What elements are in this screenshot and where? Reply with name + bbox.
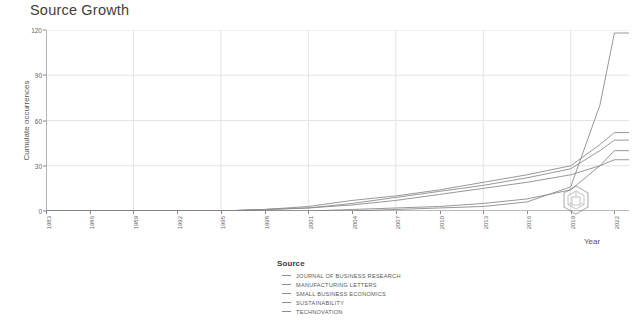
x-tick-label: 1989 [133, 216, 139, 229]
legend-items: JOURNAL OF BUSINESS RESEARCHMANUFACTURIN… [277, 271, 487, 316]
y-tick-mark [43, 30, 46, 31]
legend-item-label: JOURNAL OF BUSINESS RESEARCH [296, 273, 401, 279]
y-tick-mark [43, 165, 46, 166]
y-tick-label: 60 [35, 117, 42, 124]
x-tick-mark [46, 211, 47, 214]
x-tick-label: 2001 [308, 216, 314, 229]
legend: Source JOURNAL OF BUSINESS RESEARCHMANUF… [277, 259, 487, 316]
hexagon-watermark-icon [560, 184, 592, 216]
y-axis-title: Cumulate occurrences [22, 30, 34, 211]
x-tick-label: 2013 [483, 216, 489, 229]
x-tick-label: 2010 [439, 216, 445, 229]
x-tick-label: 2007 [395, 216, 401, 229]
legend-swatch-icon [282, 275, 291, 276]
legend-swatch-icon [282, 311, 291, 312]
legend-swatch-icon [282, 284, 291, 285]
x-tick-mark [265, 211, 266, 214]
y-tick-label: 0 [38, 208, 42, 215]
x-tick-mark [396, 211, 397, 214]
legend-item-label: SUSTAINABILITY [296, 300, 344, 306]
x-tick-label: 1986 [89, 216, 95, 229]
legend-item-label: SMALL BUSINESS ECONOMICS [296, 291, 386, 297]
y-tick-label: 120 [31, 27, 42, 34]
page-title: Source Growth [30, 2, 129, 18]
x-tick-label: 1992 [177, 216, 183, 229]
x-tick-mark [90, 211, 91, 214]
x-tick-mark [352, 211, 353, 214]
plot-area: Cumulate occurrences 0306090120 19831986… [46, 30, 629, 211]
x-tick-mark [177, 211, 178, 214]
x-axis-title: Year [584, 237, 600, 246]
legend-item[interactable]: JOURNAL OF BUSINESS RESEARCH [282, 271, 487, 280]
x-tick-mark [483, 211, 484, 214]
y-tick-label: 30 [35, 162, 42, 169]
x-tick-mark [221, 211, 222, 214]
legend-item[interactable]: MANUFACTURING LETTERS [282, 280, 487, 289]
x-tick-mark [527, 211, 528, 214]
chart-page: Source Growth Cumulate occurrences 03060… [0, 0, 642, 323]
y-tick-label: 90 [35, 72, 42, 79]
x-tick-mark [308, 211, 309, 214]
legend-item-label: MANUFACTURING LETTERS [296, 282, 377, 288]
y-tick-mark [43, 75, 46, 76]
x-tick-label: 2004 [352, 216, 358, 229]
x-tick-label: 2022 [614, 216, 620, 229]
legend-item[interactable]: SUSTAINABILITY [282, 298, 487, 307]
x-tick-mark [133, 211, 134, 214]
legend-swatch-icon [282, 302, 291, 303]
x-tick-mark [440, 211, 441, 214]
legend-item-label: TECHNOVATION [296, 309, 343, 315]
y-tick-mark [43, 120, 46, 121]
legend-title: Source [277, 259, 487, 268]
x-tick-mark [614, 211, 615, 214]
legend-item[interactable]: SMALL BUSINESS ECONOMICS [282, 289, 487, 298]
x-tick-label: 1998 [264, 216, 270, 229]
x-tick-label: 2016 [526, 216, 532, 229]
x-tick-label: 2019 [570, 216, 576, 229]
line-chart-svg [46, 30, 629, 211]
legend-swatch-icon [282, 293, 291, 294]
x-tick-label: 1983 [46, 216, 52, 229]
legend-item[interactable]: TECHNOVATION [282, 307, 487, 316]
gridlines [46, 30, 629, 211]
x-tick-label: 1995 [220, 216, 226, 229]
